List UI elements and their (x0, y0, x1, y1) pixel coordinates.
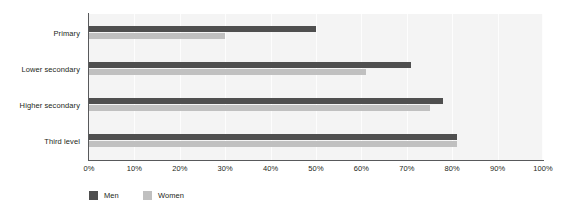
y-axis-category-labels: Primary Lower secondary Higher secondary… (0, 14, 84, 160)
x-tick-10: 10% (114, 164, 154, 173)
x-axis-line (89, 160, 544, 161)
chart-legend: Men Women (89, 188, 208, 202)
legend-swatch-men-icon (89, 191, 98, 200)
y-axis-line (88, 13, 89, 161)
x-tick-20: 20% (160, 164, 200, 173)
bar-men-higher-secondary (89, 98, 443, 104)
bar-men-primary (89, 26, 316, 32)
gridline-100 (542, 14, 543, 160)
y-axis-label-higher-secondary: Higher secondary (0, 101, 80, 110)
y-axis-label-third-level: Third level (0, 137, 80, 146)
legend-item-men: Men (89, 191, 119, 200)
x-tick-0: 0% (69, 164, 109, 173)
bar-women-higher-secondary (89, 105, 430, 111)
x-tick-30: 30% (205, 164, 245, 173)
plot-area (89, 14, 543, 160)
x-tick-100: 100% (523, 164, 561, 173)
bar-women-third-level (89, 141, 457, 147)
bar-women-primary (89, 33, 225, 39)
legend-label-women: Women (158, 191, 184, 200)
x-tick-70: 70% (387, 164, 427, 173)
gridline-90 (498, 14, 499, 160)
bar-men-third-level (89, 134, 457, 140)
bar-chart: Primary Lower secondary Higher secondary… (0, 0, 561, 215)
y-axis-label-primary: Primary (0, 29, 80, 38)
y-axis-label-lower-secondary: Lower secondary (0, 65, 80, 74)
legend-item-women: Women (143, 191, 184, 200)
legend-label-men: Men (104, 191, 119, 200)
x-axis-tick-labels: 0% 10% 20% 30% 40% 50% 60% 70% 80% 90% 1… (89, 164, 543, 178)
x-tick-50: 50% (296, 164, 336, 173)
x-tick-90: 90% (478, 164, 518, 173)
bar-men-lower-secondary (89, 62, 411, 68)
bar-women-lower-secondary (89, 69, 366, 75)
x-tick-40: 40% (251, 164, 291, 173)
legend-swatch-women-icon (143, 191, 152, 200)
x-tick-60: 60% (341, 164, 381, 173)
x-tick-80: 80% (432, 164, 472, 173)
